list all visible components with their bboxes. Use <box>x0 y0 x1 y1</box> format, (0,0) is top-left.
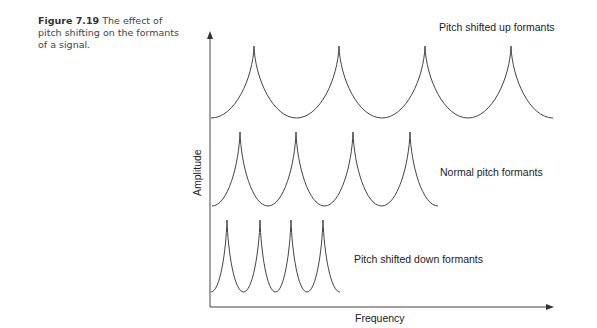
formant-curve <box>212 132 438 206</box>
x-axis-arrow-icon <box>546 304 554 310</box>
y-axis-label: Amplitude <box>191 149 203 196</box>
label-pitch-up: Pitch shifted up formants <box>439 21 555 33</box>
y-axis-arrow-icon <box>207 31 213 39</box>
x-axis-label: Frequency <box>355 312 405 324</box>
formant-curve <box>211 46 553 118</box>
label-pitch-normal: Normal pitch formants <box>440 166 543 178</box>
formant-chart: Pitch shifted up formants Normal pitch f… <box>0 0 597 328</box>
label-pitch-down: Pitch shifted down formants <box>354 253 483 265</box>
formant-curve <box>211 220 340 292</box>
